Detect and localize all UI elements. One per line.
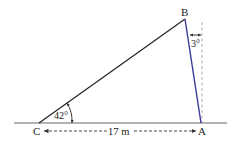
side-cb	[39, 19, 185, 123]
label-point-b: B	[181, 6, 188, 18]
label-point-a: A	[198, 125, 206, 137]
label-point-c: C	[33, 125, 40, 137]
triangle-diagram: B C A 42° 3° 17 m	[0, 0, 239, 144]
label-angle-c: 42°	[54, 110, 68, 121]
label-angle-b: 3°	[191, 38, 200, 49]
label-distance-ca: 17 m	[108, 126, 129, 137]
